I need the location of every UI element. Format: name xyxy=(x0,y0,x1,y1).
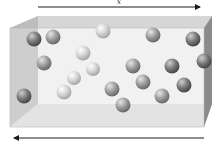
gas-particle xyxy=(67,71,81,85)
right-side-face xyxy=(204,16,212,127)
gas-particle xyxy=(37,56,52,71)
gas-particle xyxy=(126,59,141,74)
gas-particle xyxy=(86,62,100,76)
gas-particle xyxy=(27,32,42,47)
gas-particle xyxy=(76,46,91,61)
gas-particle xyxy=(146,28,161,43)
gas-particle xyxy=(136,75,151,90)
container-box xyxy=(10,16,212,127)
gas-particle xyxy=(96,24,111,39)
gas-particle xyxy=(46,30,61,45)
gas-particle xyxy=(17,89,32,104)
gas-particle xyxy=(116,98,131,113)
gas-particle xyxy=(57,85,72,100)
top-face xyxy=(10,16,212,28)
gas-box-diagram: x xyxy=(0,0,220,144)
gas-particle xyxy=(186,32,201,47)
top-arrow: x xyxy=(38,0,200,7)
gas-particle xyxy=(177,78,192,93)
gas-particle xyxy=(165,59,180,74)
gas-particle xyxy=(197,54,212,69)
gas-particle xyxy=(105,82,120,97)
gas-particle xyxy=(155,89,170,104)
x-axis-label: x xyxy=(117,0,121,6)
